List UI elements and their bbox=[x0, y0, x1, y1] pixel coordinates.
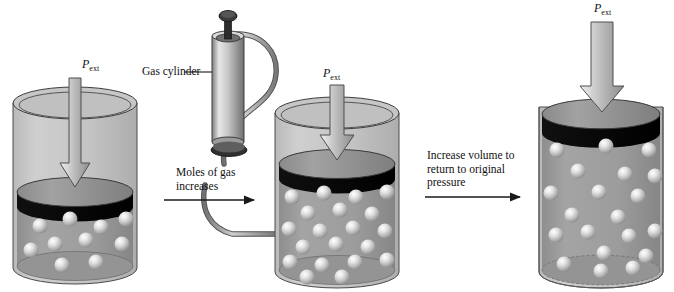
panel-2-container bbox=[275, 85, 399, 288]
diagram-svg bbox=[0, 0, 674, 292]
moles-of-gas-increases-label: Moles of gas increases bbox=[176, 166, 286, 193]
pext-label-panel-2: Pext bbox=[323, 66, 340, 82]
pext-label-panel-1: Pext bbox=[82, 57, 99, 73]
pext-label-panel-3: Pext bbox=[594, 1, 611, 17]
increase-volume-label: Increase volume to return to original pr… bbox=[427, 149, 547, 190]
gas-cylinder-apparatus bbox=[184, 11, 276, 165]
figure-canvas: Pext Pext Pext Gas cylinder Moles of gas… bbox=[0, 0, 674, 292]
pressure-arrow-panel-3 bbox=[580, 22, 624, 112]
panel-3-container bbox=[539, 22, 663, 288]
gas-cylinder-label: Gas cylinder bbox=[142, 65, 200, 79]
panel-1-container bbox=[13, 78, 137, 284]
